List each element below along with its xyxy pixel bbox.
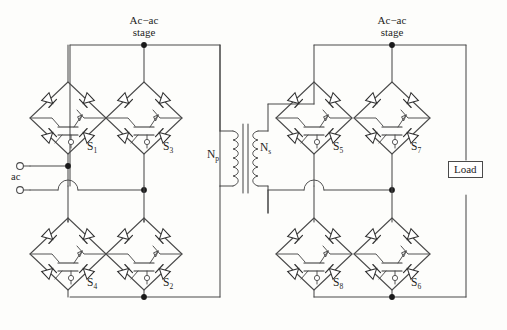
switch-cell-s3[interactable] bbox=[106, 82, 182, 186]
switch-label-s1: S1 bbox=[87, 140, 97, 156]
switch-cell-s1[interactable] bbox=[30, 82, 106, 186]
switch-label-s5: S5 bbox=[333, 140, 343, 156]
stage-label-left: Ac−ac stage bbox=[117, 14, 171, 39]
switch-cell-s7[interactable] bbox=[354, 82, 430, 186]
ns-subscript: s bbox=[268, 147, 271, 156]
ac-source-label: ac bbox=[11, 171, 20, 183]
transformer bbox=[220, 104, 268, 213]
left-stage-mid-bus bbox=[30, 163, 147, 222]
transformer-primary-label: Np bbox=[207, 148, 219, 164]
left-stage-bottom-bus bbox=[70, 294, 220, 300]
load-box: Load bbox=[448, 161, 483, 178]
switch-label-s8: S8 bbox=[333, 276, 343, 292]
stage-label-right: Ac−ac stage bbox=[365, 14, 419, 39]
switch-subscript: 1 bbox=[93, 146, 97, 155]
circuit-diagram-canvas: Ac−ac stage Ac−ac stage ac Np Ns Load S1… bbox=[0, 0, 507, 330]
stage-label-left-line2: stage bbox=[117, 26, 171, 38]
switch-subscript: 8 bbox=[339, 282, 343, 291]
switch-label-s7: S7 bbox=[411, 140, 421, 156]
stage-label-right-line1: Ac−ac bbox=[365, 14, 419, 26]
switch-subscript: 4 bbox=[93, 282, 97, 291]
switch-subscript: 2 bbox=[169, 282, 173, 291]
np-subscript: p bbox=[215, 154, 219, 163]
switch-subscript: 7 bbox=[417, 146, 421, 155]
switch-label-s2: S2 bbox=[163, 276, 173, 292]
switch-subscript: 5 bbox=[339, 146, 343, 155]
circuit-schematic-svg bbox=[0, 0, 507, 330]
switch-label-s6: S6 bbox=[411, 276, 421, 292]
stage-label-right-line2: stage bbox=[365, 26, 419, 38]
switch-label-s3: S3 bbox=[163, 140, 173, 156]
stage-label-left-line1: Ac−ac bbox=[117, 14, 171, 26]
switch-subscript: 6 bbox=[417, 282, 421, 291]
right-stage-mid-bus bbox=[268, 180, 395, 222]
switch-subscript: 3 bbox=[169, 146, 173, 155]
transformer-secondary-label: Ns bbox=[260, 141, 271, 157]
switch-label-s4: S4 bbox=[87, 276, 97, 292]
